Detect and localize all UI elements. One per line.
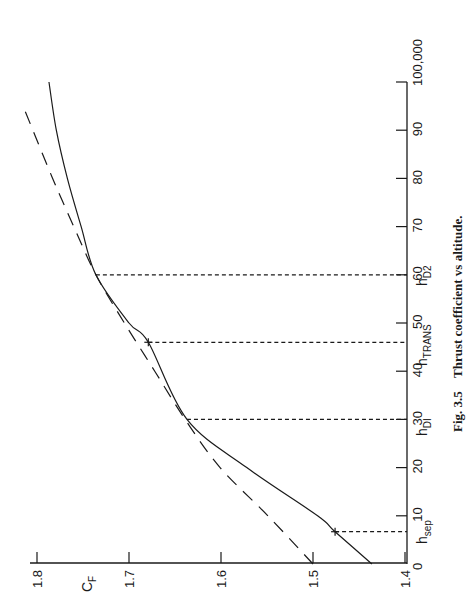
svg-text:hsep: hsep bbox=[414, 520, 433, 544]
svg-text:1.6: 1.6 bbox=[214, 570, 229, 588]
svg-text:70: 70 bbox=[410, 218, 425, 232]
cf-tick-label: 1.8 bbox=[30, 570, 45, 588]
marker-label-trans: hTRANS bbox=[414, 324, 433, 366]
ideal-cf-curve bbox=[25, 111, 313, 564]
svg-text:100,000: 100,000 bbox=[410, 39, 425, 86]
cf-axis-label: CF bbox=[79, 576, 98, 592]
svg-text:1.5: 1.5 bbox=[306, 570, 321, 588]
svg-text:80: 80 bbox=[410, 170, 425, 184]
axes bbox=[30, 82, 407, 564]
cf-tick-label: 1.6 bbox=[214, 570, 229, 588]
actual-cf-curve bbox=[49, 82, 372, 564]
altitude-tick-label: 80 bbox=[410, 170, 425, 184]
svg-text:90: 90 bbox=[410, 122, 425, 136]
altitude-tick-label: 70 bbox=[410, 218, 425, 232]
svg-text:Fig. 3.5 Thrust coeffici: Fig. 3.5 Thrust coefficient vs altitude. bbox=[450, 215, 465, 432]
svg-text:0: 0 bbox=[410, 563, 425, 570]
cf-tick-label: 1.7 bbox=[122, 570, 137, 588]
svg-text:1.7: 1.7 bbox=[122, 570, 137, 588]
marker-label-sep: hsep bbox=[414, 520, 433, 544]
thrust-coefficient-chart: 0102030405060708090100,000 1.41.51.61.71… bbox=[0, 0, 473, 616]
svg-text:1.4: 1.4 bbox=[398, 570, 413, 588]
altitude-guides bbox=[96, 275, 407, 536]
altitude-tick-label: 10 bbox=[410, 507, 425, 521]
svg-text:hTRANS: hTRANS bbox=[414, 324, 433, 366]
cf-tick-label: 1.5 bbox=[306, 570, 321, 588]
svg-text:20: 20 bbox=[410, 459, 425, 473]
cf-tick-label: 1.4 bbox=[398, 570, 413, 588]
altitude-tick-label: 0 bbox=[410, 563, 425, 570]
altitude-ticks: 0102030405060708090100,000 bbox=[396, 39, 425, 570]
altitude-tick-label: 100,000 bbox=[410, 39, 425, 86]
altitude-tick-label: 20 bbox=[410, 459, 425, 473]
svg-text:1.8: 1.8 bbox=[30, 570, 45, 588]
svg-text:10: 10 bbox=[410, 507, 425, 521]
altitude-tick-label: 90 bbox=[410, 122, 425, 136]
figure-caption: Fig. 3.5 Thrust coefficient vs altitude. bbox=[450, 215, 465, 432]
svg-text:CF: CF bbox=[79, 576, 98, 592]
